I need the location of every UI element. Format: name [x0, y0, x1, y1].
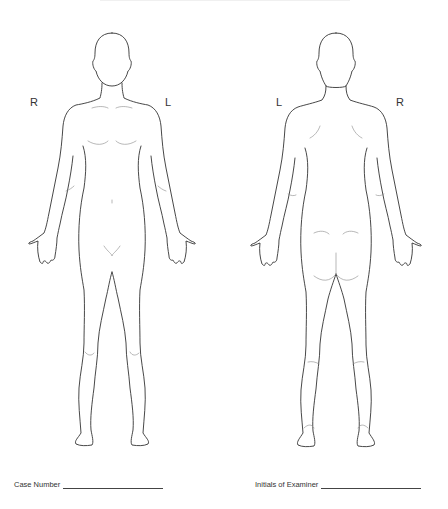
back-body-left-side — [251, 86, 326, 266]
back-buttock-right — [336, 274, 358, 280]
front-left-side-label: L — [165, 96, 171, 108]
front-groin — [104, 246, 120, 256]
back-torso-right — [336, 148, 375, 447]
front-body-left-side — [29, 83, 102, 264]
front-body-right-side — [122, 83, 195, 264]
front-knee-left — [85, 352, 94, 355]
front-body-outline[interactable] — [0, 28, 224, 458]
case-number-input-line[interactable] — [63, 480, 163, 489]
front-chest-left — [88, 141, 108, 144]
initials-of-examiner-input-line[interactable] — [321, 480, 421, 489]
back-body-right-side — [346, 86, 421, 266]
back-left-side-label: L — [276, 96, 282, 108]
initials-of-examiner-label: Initials of Examiner — [255, 480, 318, 489]
front-elbow-left — [66, 186, 74, 191]
case-number-label: Case Number — [14, 480, 60, 489]
front-elbow-right — [158, 186, 166, 191]
front-body-diagram[interactable]: R L — [0, 28, 224, 458]
back-lower-back-left — [314, 231, 329, 234]
front-head — [93, 33, 132, 86]
case-number-field[interactable]: Case Number — [14, 480, 163, 489]
back-body-diagram[interactable]: L R — [224, 28, 448, 458]
back-buttock-left — [314, 274, 336, 280]
front-chest-right — [116, 141, 136, 144]
back-shoulder-blade-left — [310, 126, 320, 138]
back-right-side-label: R — [396, 96, 404, 108]
back-shoulder-blade-right — [352, 126, 362, 138]
back-head — [317, 33, 356, 88]
front-clavicle-right — [116, 107, 132, 109]
back-lower-back-right — [343, 231, 358, 234]
initials-of-examiner-field[interactable]: Initials of Examiner — [255, 480, 421, 489]
back-torso-left — [297, 148, 336, 447]
front-torso-left — [75, 146, 112, 446]
top-rule — [100, 0, 350, 1]
back-knee-left — [308, 362, 319, 364]
front-right-side-label: R — [30, 96, 38, 108]
front-knee-right — [130, 352, 139, 355]
front-torso-right — [112, 146, 149, 446]
front-clavicle-left — [92, 107, 108, 109]
back-knee-right — [353, 362, 364, 364]
back-body-outline[interactable] — [224, 28, 448, 458]
